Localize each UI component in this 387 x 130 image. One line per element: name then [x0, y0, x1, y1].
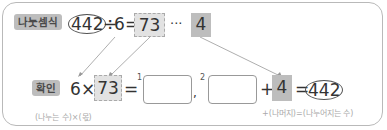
check-equals: = — [124, 79, 138, 99]
dividend-circled: 442 — [68, 14, 106, 34]
check-label-badge: 확인 — [32, 80, 60, 96]
comma: , — [193, 83, 197, 103]
check-result-circled: 442 — [305, 80, 343, 100]
remainder-separator: ··· — [170, 14, 182, 34]
blank2-index: 2 — [200, 73, 205, 82]
answer-blank-2[interactable] — [208, 75, 257, 104]
blank1-index: 1 — [137, 73, 142, 82]
quotient-box: 73 — [134, 13, 165, 37]
check-quotient-box: 73 — [94, 75, 122, 101]
divisor: 6 — [114, 14, 125, 34]
check-divisor: 6 — [70, 79, 81, 99]
hint-left: (나누는 수)×(몫) — [35, 111, 92, 122]
hint-right: +(나머지)=(나누어지는 수) — [262, 107, 353, 118]
answer-blank-1[interactable] — [143, 75, 192, 104]
remainder-box: 4 — [191, 13, 211, 37]
check-remainder-box: 4 — [272, 75, 292, 101]
division-label-badge: 나눗셈식 — [14, 14, 62, 30]
